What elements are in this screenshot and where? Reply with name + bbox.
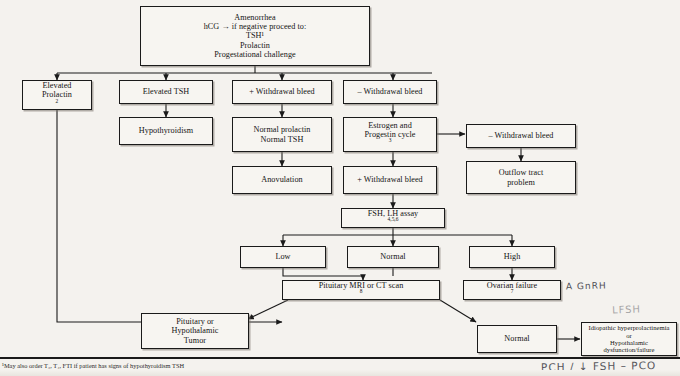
normal-bottom-label: Normal [504, 334, 529, 343]
outflow-line-2: problem [499, 178, 544, 187]
node-ovarian-failure[interactable]: Ovarian failure7 [463, 280, 561, 300]
idiopathic-line-3: Hypothalamic dysfunction/failure [584, 339, 674, 354]
minus-withdrawal-bleed-2-label: – Withdrawal bleed [489, 131, 554, 140]
estrogen-progestin-line-2: Progestin cycle3 [365, 130, 416, 148]
flowchart-canvas: Amenorrhea hCG → if negative proceed to:… [0, 0, 680, 376]
node-normal-mid[interactable]: Normal [347, 246, 439, 268]
node-hypothyroidism[interactable]: Hypothyroidism [119, 117, 213, 145]
start-line-1: Amenorrhea [204, 13, 307, 22]
high-label: High [504, 252, 521, 261]
pituitary-tumor-line-1: Pituitary or [172, 317, 219, 326]
start-line-5: Progestational challenge [204, 50, 307, 59]
footnote-ref-3: 3 [389, 137, 392, 143]
node-idiopathic-hyperprolactinemia[interactable]: Idiopathic hyperprolactinemia or Hypotha… [581, 322, 677, 356]
node-estrogen-progestin[interactable]: Estrogen and Progestin cycle3 [343, 117, 437, 152]
node-plus-withdrawal-bleed-2[interactable]: + Withdrawal bleed [343, 166, 437, 194]
node-outflow-tract-problem[interactable]: Outflow tract problem [466, 161, 576, 194]
plus-withdrawal-bleed-2-label: + Withdrawal bleed [357, 175, 423, 184]
footnote-ref-7: 7 [511, 288, 514, 294]
node-normal-bottom[interactable]: Normal [477, 325, 557, 353]
minus-withdrawal-bleed-1-label: – Withdrawal bleed [358, 87, 423, 96]
page-edge-shadow [0, 370, 680, 376]
pituitary-tumor-line-3: Tumor [172, 336, 219, 345]
node-elevated-prolactin[interactable]: Elevated Prolactin2 [22, 80, 92, 110]
fsh-lh-assay-label: FSH, LH assay4,5,6 [368, 209, 418, 227]
node-start[interactable]: Amenorrhea hCG → if negative proceed to:… [140, 6, 370, 66]
elevated-prolactin-line-2: Prolactin2 [42, 90, 72, 108]
plus-withdrawal-bleed-1-label: + Withdrawal bleed [249, 87, 315, 96]
node-pituitary-tumor[interactable]: Pituitary or Hypothalamic Tumor [141, 313, 249, 349]
handwritten-note-gnrh: A GnRH [566, 280, 607, 291]
node-plus-withdrawal-bleed-1[interactable]: + Withdrawal bleed [232, 80, 332, 104]
idiopathic-line-1: Idiopathic hyperprolactinemia [584, 324, 674, 331]
node-fsh-lh-assay[interactable]: FSH, LH assay4,5,6 [341, 208, 445, 228]
elevated-tsh-label: Elevated TSH [143, 87, 190, 96]
footnote-ref-456: 4,5,6 [387, 216, 398, 222]
idiopathic-line-2: or [584, 332, 674, 339]
anovulation-label: Anovulation [261, 175, 302, 184]
hypothyroidism-label: Hypothyroidism [139, 126, 193, 135]
node-elevated-tsh[interactable]: Elevated TSH [119, 80, 213, 104]
pituitary-tumor-line-2: Hypothalamic [172, 326, 219, 335]
handwritten-note-faint: LFSH [612, 303, 641, 315]
normal-mid-label: Normal [380, 252, 405, 261]
node-pituitary-mri[interactable]: Pituitary MRI or CT scan8 [282, 280, 440, 300]
low-label: Low [275, 252, 290, 261]
node-minus-withdrawal-bleed-2[interactable]: – Withdrawal bleed [466, 124, 576, 148]
footnote-ref-8: 8 [360, 288, 363, 294]
estrogen-progestin-line-1: Estrogen and [365, 121, 416, 130]
normal-prolactin-line-1: Normal prolactin [254, 125, 311, 134]
outflow-line-1: Outflow tract [499, 168, 544, 177]
node-anovulation[interactable]: Anovulation [232, 166, 332, 194]
ovarian-failure-label: Ovarian failure7 [487, 281, 538, 299]
start-line-3: TSH¹ [204, 31, 307, 40]
node-low[interactable]: Low [240, 246, 326, 268]
node-minus-withdrawal-bleed-1[interactable]: – Withdrawal bleed [343, 80, 437, 104]
elevated-prolactin-line-1: Elevated [42, 81, 72, 90]
footnote-ref-2: 2 [56, 98, 59, 104]
footnote-divider [0, 357, 680, 359]
pituitary-mri-label: Pituitary MRI or CT scan8 [319, 281, 404, 299]
normal-prolactin-line-2: Normal TSH [254, 135, 311, 144]
start-line-4: Prolactin [204, 41, 307, 50]
node-normal-prolactin-tsh[interactable]: Normal prolactin Normal TSH [232, 117, 332, 152]
start-line-2: hCG → if negative proceed to: [204, 22, 307, 31]
node-high[interactable]: High [469, 246, 555, 268]
